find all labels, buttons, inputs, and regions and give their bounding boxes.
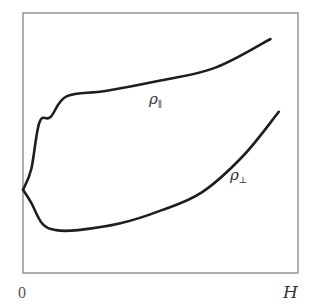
- chart: ρ∥ ρ⊥ 0 H: [0, 0, 319, 306]
- plot-frame: [23, 13, 298, 273]
- rho-parallel-label: ρ∥: [148, 90, 162, 109]
- rho-perp-curve: [23, 112, 279, 231]
- rho-perp-label: ρ⊥: [229, 166, 247, 185]
- x-origin-tick: 0: [18, 284, 26, 301]
- x-axis-label: H: [282, 282, 299, 302]
